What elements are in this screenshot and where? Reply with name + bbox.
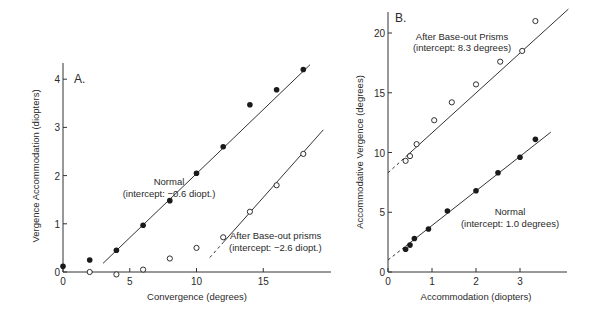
open-data-point <box>449 100 454 105</box>
panel-b-chart: 0123 05101520 B. Accommodation (diopters… <box>354 9 568 302</box>
y-tick-label: 3 <box>54 122 60 133</box>
y-tick-label: 15 <box>374 88 386 99</box>
open-data-point <box>414 142 419 147</box>
filled-data-point <box>114 248 120 254</box>
panel-a-prism-intercept: (intercept: −2.6 diopt.) <box>229 242 322 253</box>
panel-b-label: B. <box>395 11 406 25</box>
open-data-point <box>533 18 538 23</box>
panel-a-label: A. <box>74 72 85 86</box>
panel-b-prism-intercept: (intercept: 8.3 degrees) <box>413 42 511 53</box>
x-tick-label: 0 <box>60 276 66 287</box>
open-data-point <box>403 158 408 163</box>
panel-b-normal-annotation: Normal <box>495 206 526 217</box>
y-tick-label: 4 <box>54 74 60 85</box>
x-tick-label: 5 <box>127 276 133 287</box>
filled-data-point <box>247 102 253 108</box>
fit-line-extrapolated <box>388 246 406 260</box>
fit-line <box>223 130 323 243</box>
fit-line-extrapolated <box>388 157 406 173</box>
panel-a-y-axis-label: Vergence Accommodation (diopters) <box>30 89 41 242</box>
panel-a-normal-annotation: Normal <box>154 176 185 187</box>
filled-data-point <box>60 263 66 269</box>
panel-b-x-axis-label: Accommodation (diopters) <box>421 291 532 302</box>
open-data-point <box>247 209 252 214</box>
x-tick-label: 0 <box>385 276 391 287</box>
y-tick-label: 0 <box>379 267 385 278</box>
panel-b-x-ticks: 0123 <box>385 268 523 287</box>
open-data-point <box>141 267 146 272</box>
filled-data-point <box>473 188 479 194</box>
figure: 051015 01234 A. Convergence (degrees) Ve… <box>0 0 592 320</box>
filled-data-point <box>426 226 432 232</box>
open-data-point <box>221 235 226 240</box>
filled-data-point <box>495 170 501 176</box>
filled-data-point <box>274 87 280 93</box>
open-data-point <box>432 118 437 123</box>
filled-data-point <box>403 246 409 252</box>
panel-b-normal-intercept: (intercept: 1.0 degrees) <box>461 218 559 229</box>
filled-data-point <box>194 170 200 176</box>
filled-data-point <box>220 144 226 150</box>
y-tick-label: 10 <box>374 148 386 159</box>
x-tick-label: 15 <box>258 276 270 287</box>
y-tick-label: 2 <box>54 171 60 182</box>
filled-data-point <box>301 67 307 73</box>
panel-a-y-ticks: 01234 <box>54 74 67 278</box>
panel-b-prism-annotation: After Base-out Prisms <box>416 31 509 42</box>
open-data-point <box>498 59 503 64</box>
panel-a-chart: 051015 01234 A. Convergence (degrees) Ve… <box>30 63 331 302</box>
panel-a-prism-annotation: After Base-out prisms <box>230 230 322 241</box>
open-data-point <box>520 48 525 53</box>
panel-b-y-axis-label: Accommodative Vergence (degrees) <box>354 75 365 229</box>
x-tick-label: 2 <box>473 276 479 287</box>
filled-data-point <box>517 154 523 160</box>
y-tick-label: 20 <box>374 28 386 39</box>
panel-b-y-ticks: 05101520 <box>374 28 392 278</box>
open-data-point <box>301 151 306 156</box>
filled-data-point <box>140 222 146 228</box>
open-data-point <box>194 245 199 250</box>
panel-a-normal-intercept: (intercept: −0.6 diopt.) <box>123 188 216 199</box>
open-data-point <box>473 82 478 87</box>
y-tick-label: 1 <box>54 219 60 230</box>
y-tick-label: 0 <box>54 267 60 278</box>
open-data-point <box>167 256 172 261</box>
open-data-point <box>114 272 119 277</box>
filled-data-point <box>533 137 539 143</box>
filled-data-point <box>412 236 418 242</box>
panel-a-x-axis-label: Convergence (degrees) <box>147 291 247 302</box>
filled-data-point <box>87 257 93 263</box>
x-tick-label: 10 <box>191 276 203 287</box>
open-data-point <box>407 153 412 158</box>
open-data-point <box>274 183 279 188</box>
fit-line-extrapolated <box>210 243 223 258</box>
x-tick-label: 1 <box>429 276 435 287</box>
y-tick-label: 5 <box>379 207 385 218</box>
filled-data-point <box>445 208 451 214</box>
filled-data-point <box>407 242 413 248</box>
x-tick-label: 3 <box>517 276 523 287</box>
open-data-point <box>87 269 92 274</box>
